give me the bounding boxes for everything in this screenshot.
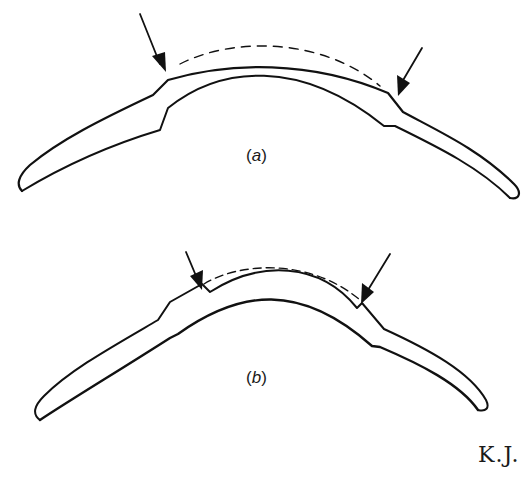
panel-a-label: (a) — [246, 146, 267, 166]
panel-b-label: (b) — [246, 368, 267, 388]
panel-b-outer-surface — [35, 270, 488, 420]
panel-b-inner-surface — [40, 299, 478, 420]
arrow-icon — [186, 252, 203, 290]
arrow-icon — [140, 14, 166, 72]
label-paren: ) — [261, 146, 267, 165]
panel-b-drawing — [35, 252, 488, 420]
label-paren: ) — [261, 368, 267, 387]
diagram-canvas — [0, 0, 528, 486]
panel-a-drawing — [19, 14, 519, 198]
panel-a-inner-surface — [22, 76, 510, 198]
panel-b-dashed-original-contour — [204, 268, 360, 300]
arrow-icon — [361, 254, 390, 304]
panel-a-outer-surface — [19, 67, 519, 198]
label-letter: b — [252, 368, 261, 387]
arrow-icon — [397, 48, 422, 96]
label-letter: a — [252, 146, 261, 165]
artist-signature: K.J. — [478, 442, 520, 467]
